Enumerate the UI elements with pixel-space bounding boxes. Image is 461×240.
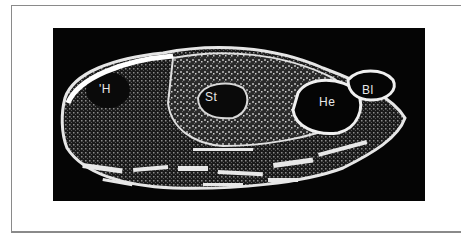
micrograph-drawing <box>53 28 425 201</box>
label-he: He <box>319 95 335 109</box>
label-bl: Bl <box>362 83 374 97</box>
micrograph-image: 'H St He Bl <box>53 28 425 201</box>
label-h: 'H <box>99 82 111 96</box>
label-st: St <box>205 90 217 104</box>
